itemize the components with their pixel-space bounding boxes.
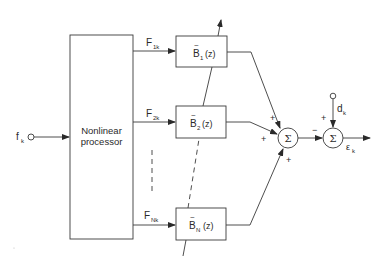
scan-speck — [13, 247, 14, 248]
fnk-label: F — [144, 210, 150, 221]
bn-label: B — [189, 220, 196, 231]
b2-label: B — [190, 118, 197, 129]
fnk-subscript: Nk — [151, 217, 159, 223]
f1k-subscript: 1k — [153, 44, 160, 50]
branch-n: F Nk ~ B N (z) — [133, 149, 283, 240]
desired-label: d — [337, 103, 343, 114]
sigma-2-icon: Σ — [329, 133, 336, 144]
f2k-subscript: 2k — [153, 115, 160, 121]
input-subscript: k — [21, 138, 25, 144]
desired-dk: d k + — [321, 93, 347, 127]
summer1-sign-middle: + — [261, 134, 266, 144]
processor-label-line2: processor — [81, 136, 123, 147]
error-output: ε k — [343, 138, 370, 154]
error-label: ε — [346, 142, 350, 152]
bn-output-arrow — [226, 149, 283, 225]
b1-label: B — [193, 48, 200, 59]
desired-terminal-icon — [330, 93, 336, 99]
b2-arg: (z) — [202, 119, 213, 129]
filter-b2-block — [176, 106, 226, 138]
bn-subscript: N — [196, 227, 200, 233]
error-subscript: k — [352, 148, 356, 154]
desired-subscript: k — [343, 110, 347, 116]
input-terminal-icon — [28, 134, 34, 140]
summer2-sign-minus: − — [312, 125, 317, 135]
f1k-label: F — [146, 37, 152, 48]
b1-arg: (z) — [205, 49, 216, 59]
summer1-sign-bottom: + — [286, 155, 291, 165]
summer1-sign-top: + — [270, 113, 275, 123]
processor-label-line1: Nonlinear — [81, 125, 122, 136]
sigma-1-icon: Σ — [284, 133, 291, 144]
input-fk: f k — [16, 131, 69, 144]
f2k-label: F — [146, 108, 152, 119]
filter-bn-block — [176, 208, 226, 240]
filter-b1-block — [176, 36, 227, 67]
branch-2: F 2k ~ B 2 (z) — [133, 106, 277, 138]
adaptive-filter-block-diagram: f k Nonlinear processor F 1k ~ B 1 (z) F… — [0, 0, 389, 264]
summing-junction-2: Σ — [323, 128, 343, 148]
bn-arg: (z) — [203, 221, 214, 231]
b2-output-arrow — [226, 122, 277, 134]
input-label: f — [16, 131, 19, 142]
summer2-sign-plus: + — [321, 113, 326, 123]
nonlinear-processor-block: Nonlinear processor — [70, 35, 133, 239]
